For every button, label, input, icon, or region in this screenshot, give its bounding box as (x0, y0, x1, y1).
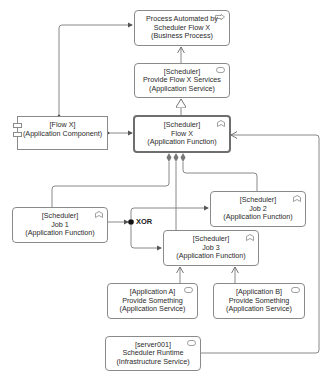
node-type-line: (Application Function) (147, 138, 217, 147)
composition-diamonds (167, 153, 186, 162)
xor-junction-label: XOR (136, 217, 152, 226)
app-a-service-node[interactable]: [Application A] Provide Something (Appli… (107, 283, 198, 319)
node-type-line: (Business Process) (151, 32, 213, 41)
flow-x-function-node[interactable]: [Scheduler] Flow X (Application Function… (133, 115, 231, 153)
connection-xor-to-job3[interactable] (131, 225, 161, 248)
xor-junction[interactable] (128, 219, 134, 225)
server001-infrastructure-service-node[interactable]: [server001] Scheduler Runtime (Infrastru… (105, 336, 201, 371)
job2-node[interactable]: [Scheduler] Job 2 (Application Function) (210, 191, 306, 227)
function-chevron-icon (293, 195, 301, 202)
node-type-line: (Application Service) (120, 305, 186, 314)
node-type-line: (Application Function) (223, 213, 293, 222)
flow-x-services-node[interactable]: [Scheduler] Provide Flow X Services (App… (134, 63, 230, 98)
connection-flowx-composes-job1[interactable] (52, 162, 169, 207)
node-type-line: (Application Service) (149, 85, 215, 94)
connection-component-to-process[interactable] (59, 25, 132, 116)
business-process-arrow-icon (215, 14, 225, 20)
function-chevron-icon (95, 211, 103, 218)
job3-node[interactable]: [Scheduler] Job 3 (Application Function) (163, 230, 259, 266)
component-icon (13, 132, 22, 137)
service-pill-icon (291, 287, 300, 293)
service-pill-icon (216, 67, 225, 73)
service-pill-icon (187, 340, 196, 346)
business-process-node[interactable]: Process Automated by Scheduler Flow X (B… (134, 10, 230, 46)
function-chevron-icon (217, 120, 225, 127)
app-b-service-node[interactable]: [Application B] Provide Something (Appli… (213, 283, 305, 319)
node-type-line: (Infrastructure Service) (116, 358, 189, 367)
function-chevron-icon (246, 234, 254, 241)
job1-node[interactable]: [Scheduler] Job 1 (Application Function) (12, 207, 108, 243)
component-icon (13, 123, 22, 128)
connection-flowx-composes-job2[interactable] (183, 162, 257, 191)
service-pill-icon (184, 287, 193, 293)
node-type-line: (Application Component) (23, 130, 102, 139)
flow-x-component-node[interactable]: [Flow X] (Application Component) (17, 116, 108, 150)
node-type-line: (Application Service) (226, 305, 292, 314)
node-type-line: (Application Function) (25, 229, 95, 238)
node-type-line: (Application Function) (176, 252, 246, 261)
